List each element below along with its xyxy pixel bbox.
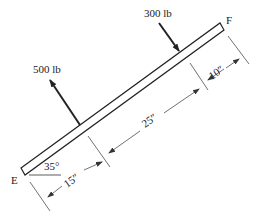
end-label-e: E <box>11 174 18 186</box>
angle-label: 35° <box>44 160 59 172</box>
force-500lb: 500 lb <box>33 63 80 125</box>
dimension-label-15: 15″ <box>61 171 81 190</box>
force-arrow-icon <box>159 23 179 51</box>
force-label-500: 500 lb <box>33 63 61 75</box>
extension-lines <box>30 36 249 211</box>
force-arrow-icon <box>50 80 80 125</box>
force-300lb: 300 lb <box>144 7 179 51</box>
dimension-label-25: 25″ <box>139 111 159 130</box>
end-label-f: F <box>226 14 232 26</box>
beam <box>21 23 224 175</box>
beam-diagram: 35° E F 300 lb 500 lb 15″ 25″ 10″ <box>0 0 258 223</box>
force-label-300: 300 lb <box>144 7 172 19</box>
